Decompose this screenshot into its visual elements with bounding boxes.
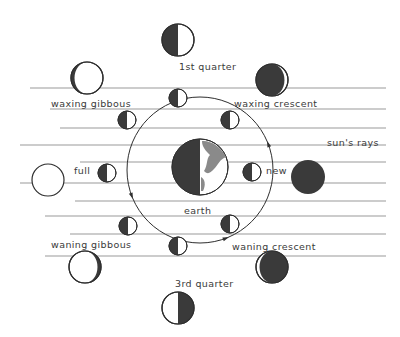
orbit-moon-top-right	[221, 111, 239, 129]
label-waning-gibbous: waning gibbous	[51, 240, 131, 250]
label-new: new	[266, 166, 287, 176]
label-first-quarter: 1st quarter	[179, 62, 236, 72]
orbit-moon-top-left	[118, 111, 136, 129]
orbit-moon-bottom	[169, 237, 187, 255]
phase-icon-waning-gibbous	[69, 251, 101, 283]
phase-icon-third-quarter	[162, 292, 194, 324]
orbit-moon-left	[98, 164, 116, 182]
label-waxing-gibbous: waxing gibbous	[51, 99, 131, 109]
orbit-arrow-icon	[267, 141, 271, 147]
phase-icon-full	[32, 164, 64, 196]
label-waning-crescent: waning crescent	[232, 242, 316, 252]
moon-phases-diagram: 1st quarter waxing crescent waxing gibbo…	[0, 0, 400, 337]
label-third-quarter: 3rd quarter	[175, 279, 234, 289]
phase-icon-new	[291, 160, 325, 194]
label-full: full	[74, 166, 90, 176]
phase-icon-first-quarter	[162, 24, 194, 56]
label-waxing-crescent: waxing crescent	[234, 99, 317, 109]
phase-icon-waning-crescent	[256, 251, 288, 283]
orbit-moon-bottom-right	[221, 215, 239, 233]
orbit-arrow-icon	[129, 192, 133, 198]
earth-icon	[172, 139, 228, 195]
orbit-arrow-icon	[222, 237, 228, 241]
phase-icon-waxing-gibbous	[71, 62, 103, 94]
orbit-moon-bottom-left	[119, 217, 137, 235]
label-earth: earth	[184, 206, 211, 216]
label-suns-rays: sun's rays	[327, 138, 379, 148]
orbit-moon-top	[169, 89, 187, 107]
orbit-moon-right	[243, 163, 261, 181]
phase-icon-waxing-crescent	[256, 64, 288, 96]
